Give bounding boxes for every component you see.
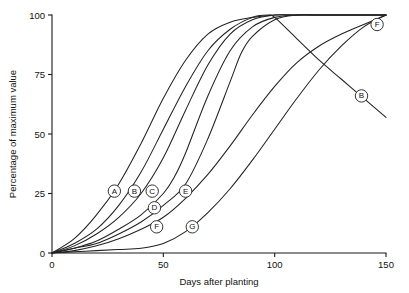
series-label-A: A	[108, 185, 120, 197]
series-label-B-end-text: B	[359, 91, 364, 100]
y-tick-label-50: 50	[34, 129, 45, 140]
x-tick-label-50: 50	[158, 259, 169, 270]
series-label-D-text: D	[152, 203, 158, 212]
series-label-A-text: A	[112, 187, 118, 196]
x-tick-label-150: 150	[378, 259, 394, 270]
series-label-C: C	[146, 185, 158, 197]
series-label-D: D	[148, 202, 160, 214]
curve-E	[52, 15, 386, 253]
series-label-C-text: C	[149, 187, 155, 196]
series-label-F-end: F	[371, 18, 383, 30]
series-label-E-text: E	[183, 187, 188, 196]
series-label-F-end-text: F	[375, 20, 380, 29]
series-label-F-text: F	[154, 222, 159, 231]
x-axis-title: Days after planting	[179, 276, 258, 287]
y-tick-label-100: 100	[29, 10, 45, 21]
x-tick-label-100: 100	[267, 259, 283, 270]
data-curves	[52, 15, 386, 253]
series-label-B: B	[128, 185, 140, 197]
series-label-G-text: G	[189, 222, 195, 231]
series-label-G: G	[186, 221, 198, 233]
y-tick-label-0: 0	[40, 248, 45, 259]
curve-D	[52, 15, 386, 253]
series-label-B-text: B	[132, 187, 137, 196]
x-tick-label-0: 0	[49, 259, 54, 270]
y-tick-label-75: 75	[34, 69, 45, 80]
y-axis-title: Percentage of maximum value	[7, 70, 18, 198]
line-chart: 0255075100050100150 ABBCDEFFG Days after…	[0, 0, 409, 293]
chart-container: 0255075100050100150 ABBCDEFFG Days after…	[0, 0, 409, 293]
curve-G	[52, 15, 386, 253]
series-label-B-end: B	[355, 90, 367, 102]
y-tick-label-25: 25	[34, 188, 45, 199]
series-label-E: E	[179, 185, 191, 197]
curve-C	[52, 15, 386, 253]
series-label-F: F	[150, 221, 162, 233]
curve-B	[52, 15, 386, 253]
curve-A	[52, 15, 386, 253]
